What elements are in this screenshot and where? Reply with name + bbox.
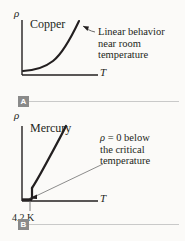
panel-b-annotation: ρ = 0 below the critical temperature <box>100 132 150 167</box>
panel-b-mercury-curve <box>32 126 66 188</box>
panel-a-tag: A <box>0 96 185 107</box>
panel-b-tag: B <box>0 219 185 230</box>
panel-a-copper: ρ T Copper Linear behavior near room tem… <box>0 0 185 100</box>
panel-a-material-label: Copper <box>30 18 65 30</box>
panel-b-y-axis-label: ρ <box>14 110 19 121</box>
panel-b-leader-line <box>36 164 103 196</box>
panel-a-annotation: Linear behavior near room temperature <box>98 26 165 61</box>
panel-b-material-label: Mercury <box>30 122 71 134</box>
panel-b-annotation-text: = 0 below the critical temperature <box>100 132 150 166</box>
panel-a-badge: A <box>18 96 29 107</box>
panel-b-badge: B <box>18 219 29 230</box>
panel-a-arrowhead <box>83 26 89 31</box>
panel-b-rule <box>29 224 179 225</box>
panel-b-x-axis-label: T <box>100 193 106 204</box>
panel-a-y-axis-label: ρ <box>14 8 19 19</box>
resistivity-figure: ρ T Copper Linear behavior near room tem… <box>0 0 185 241</box>
panel-a-rule <box>29 101 179 102</box>
panel-a-x-axis-label: T <box>100 67 106 78</box>
